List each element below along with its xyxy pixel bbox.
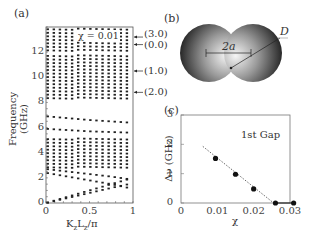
c-xtick-0.02: 0.02 xyxy=(239,205,269,216)
c-ytick-1: 1 xyxy=(143,167,173,178)
chart-c-annotation: 1st Gap xyxy=(241,129,280,140)
c-ytick-2: 2 xyxy=(143,137,173,148)
c-xtick-0: 0 xyxy=(166,205,196,216)
c-xtick-0.01: 0.01 xyxy=(202,205,232,216)
chart-c: 1st Gap Δν (GHz) χ 0123 00.010.020.03 xyxy=(0,0,311,242)
c-xtick-0.03: 0.03 xyxy=(275,205,305,216)
chart-c-xlabel: χ xyxy=(232,215,238,226)
c-ytick-3: 3 xyxy=(143,108,173,119)
